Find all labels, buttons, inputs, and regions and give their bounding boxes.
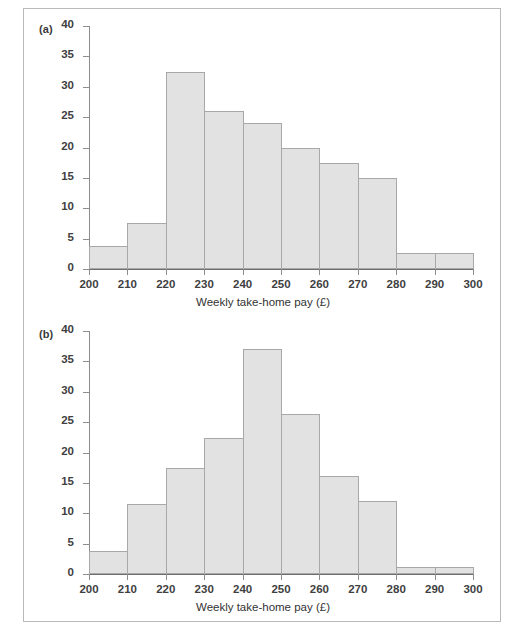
x-axis-tick-label: 270 (348, 278, 367, 290)
x-axis-tick (396, 269, 397, 275)
x-axis-tick (243, 269, 244, 275)
y-axis-tick: 10 (83, 208, 89, 209)
x-axis-tick (89, 574, 90, 580)
histogram-bar (243, 349, 282, 574)
y-axis-tick-label: 35 (61, 48, 74, 60)
y-axis-tick: 5 (83, 544, 89, 545)
histogram-bar (281, 148, 320, 270)
histogram-bar (396, 567, 435, 574)
x-axis-tick (89, 269, 90, 275)
y-axis-tick: 25 (83, 422, 89, 423)
histogram-bar (89, 551, 128, 574)
y-axis-tick-label: 20 (61, 445, 74, 457)
x-axis-tick (281, 574, 282, 580)
histogram-bar (319, 476, 358, 574)
x-axis-tick (358, 574, 359, 580)
histogram-bar (319, 163, 358, 269)
x-axis-tick (127, 269, 128, 275)
plot-area-b: 0510152025303540200210220230240250260270… (89, 331, 473, 574)
x-axis-tick-label: 290 (425, 278, 444, 290)
plot-area-a: 0510152025303540200210220230240250260270… (89, 26, 473, 269)
x-axis-tick (166, 574, 167, 580)
figure-frame: (a) 051015202530354020021022023024025026… (23, 8, 501, 622)
y-axis-tick-label: 15 (61, 170, 74, 182)
x-axis-tick-label: 300 (463, 278, 482, 290)
y-axis-tick: 35 (83, 56, 89, 57)
x-axis-tick-label: 220 (156, 278, 175, 290)
x-axis-tick (473, 269, 474, 275)
histogram-bar (358, 178, 397, 269)
y-axis-b (89, 331, 90, 575)
y-axis-tick-label: 10 (61, 505, 74, 517)
y-axis-tick-label: 40 (61, 18, 74, 30)
histogram-bar (204, 438, 243, 574)
x-axis-tick (435, 269, 436, 275)
y-axis-tick: 35 (83, 361, 89, 362)
x-axis-title-b: Weekly take-home pay (£) (24, 601, 502, 613)
histogram-bar (396, 253, 435, 269)
histogram-bar (435, 567, 474, 574)
x-axis-tick (127, 574, 128, 580)
y-axis-tick-label: 10 (61, 200, 74, 212)
x-axis-tick (166, 269, 167, 275)
x-axis-tick-label: 300 (463, 583, 482, 595)
x-axis-tick (319, 574, 320, 580)
y-axis-tick-label: 20 (61, 140, 74, 152)
y-axis-tick: 20 (83, 453, 89, 454)
x-axis-tick-label: 280 (387, 583, 406, 595)
y-axis-tick: 5 (83, 239, 89, 240)
x-axis-tick-label: 250 (271, 278, 290, 290)
histogram-bar (204, 111, 243, 269)
y-axis-tick-label: 30 (61, 384, 74, 396)
x-axis-tick-label: 230 (195, 583, 214, 595)
histogram-bar (166, 72, 205, 269)
x-axis-tick-label: 260 (310, 583, 329, 595)
y-axis-tick-label: 35 (61, 353, 74, 365)
y-axis-a (89, 26, 90, 270)
x-axis-tick (435, 574, 436, 580)
y-axis-tick: 25 (83, 117, 89, 118)
x-axis-tick (473, 574, 474, 580)
x-axis-tick (319, 269, 320, 275)
histogram-bar (166, 468, 205, 574)
x-axis-tick-label: 230 (195, 278, 214, 290)
x-axis-tick (396, 574, 397, 580)
histogram-panel-a: (a) 051015202530354020021022023024025026… (24, 9, 502, 316)
y-axis-tick: 30 (83, 87, 89, 88)
y-axis-tick-label: 0 (68, 261, 74, 273)
y-axis-tick: 40 (83, 26, 89, 27)
histogram-panel-b: (b) 051015202530354020021022023024025026… (24, 314, 502, 621)
x-axis-tick (281, 269, 282, 275)
y-axis-tick-label: 25 (61, 109, 74, 121)
y-axis-tick-label: 25 (61, 414, 74, 426)
y-axis-tick-label: 15 (61, 475, 74, 487)
x-axis-tick-label: 270 (348, 583, 367, 595)
y-axis-tick-label: 5 (68, 536, 74, 548)
y-axis-tick: 10 (83, 513, 89, 514)
x-axis-tick-label: 240 (233, 278, 252, 290)
x-axis-tick-label: 240 (233, 583, 252, 595)
x-axis-tick-label: 210 (118, 278, 137, 290)
x-axis-tick (358, 269, 359, 275)
x-axis-tick-label: 210 (118, 583, 137, 595)
y-axis-tick: 15 (83, 483, 89, 484)
x-axis-tick-label: 200 (79, 583, 98, 595)
histogram-bar (89, 246, 128, 269)
histogram-bar (358, 501, 397, 574)
x-axis-tick (204, 269, 205, 275)
histogram-bar (127, 223, 166, 269)
y-axis-tick: 30 (83, 392, 89, 393)
y-axis-tick: 20 (83, 148, 89, 149)
histogram-bar (127, 504, 166, 574)
x-axis-tick-label: 290 (425, 583, 444, 595)
x-axis-tick-label: 220 (156, 583, 175, 595)
y-axis-tick: 15 (83, 178, 89, 179)
histogram-bar (243, 123, 282, 269)
x-axis-tick-label: 260 (310, 278, 329, 290)
y-axis-tick-label: 40 (61, 323, 74, 335)
x-axis-tick-label: 250 (271, 583, 290, 595)
panel-label-a: (a) (39, 23, 53, 35)
y-axis-tick-label: 5 (68, 231, 74, 243)
panel-label-b: (b) (39, 328, 53, 340)
x-axis-tick-label: 200 (79, 278, 98, 290)
